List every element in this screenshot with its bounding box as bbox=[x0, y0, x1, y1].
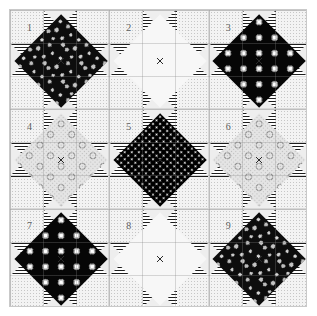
quilt-block-8[interactable]: 8 bbox=[109, 209, 208, 307]
block-number-label: 2 bbox=[114, 13, 143, 42]
block-number-label: 7 bbox=[15, 212, 44, 241]
quilt-block-3[interactable]: 3 bbox=[209, 10, 307, 109]
sash-center-mark bbox=[256, 157, 262, 163]
sash-center-mark bbox=[157, 256, 163, 262]
quilt-block-7[interactable]: 7 bbox=[10, 209, 109, 307]
sash-center-mark bbox=[58, 58, 64, 64]
sash-center-mark bbox=[157, 157, 163, 163]
sash-center-mark bbox=[157, 58, 163, 64]
quilt-block-9[interactable]: 9 bbox=[209, 209, 307, 307]
sash-center-mark bbox=[256, 256, 262, 262]
sash-center-mark bbox=[58, 256, 64, 262]
quilt-layout-diagram: 123456789 bbox=[0, 0, 317, 316]
block-number-label: 3 bbox=[214, 13, 243, 42]
block-number-label: 5 bbox=[114, 112, 143, 141]
block-number-label: 1 bbox=[15, 13, 44, 42]
block-number-label: 6 bbox=[214, 112, 243, 141]
quilt-block-6[interactable]: 6 bbox=[209, 109, 307, 208]
block-number-label: 8 bbox=[114, 212, 143, 241]
sash-center-mark bbox=[58, 157, 64, 163]
sash-center-mark bbox=[256, 58, 262, 64]
quilt-block-1[interactable]: 1 bbox=[10, 10, 109, 109]
block-number-label: 4 bbox=[15, 112, 44, 141]
quilt-block-5[interactable]: 5 bbox=[109, 109, 208, 208]
quilt-top-area: 123456789 bbox=[9, 9, 307, 307]
quilt-block-2[interactable]: 2 bbox=[109, 10, 208, 109]
block-number-label: 9 bbox=[214, 212, 243, 241]
quilt-block-4[interactable]: 4 bbox=[10, 109, 109, 208]
